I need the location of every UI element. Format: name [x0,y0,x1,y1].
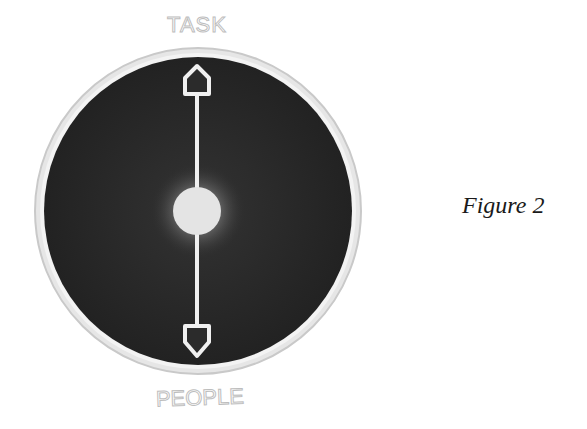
people-label: PEOPLE [155,383,244,411]
figure-caption: Figure 2 [462,192,544,219]
center-dot [173,187,221,235]
task-label: TASK [167,12,227,37]
